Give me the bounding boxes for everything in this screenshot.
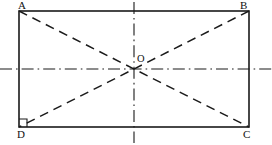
vertex-label-a: A <box>18 0 26 11</box>
geometry-figure: A B C D O <box>0 0 272 145</box>
vertex-label-b: B <box>240 0 247 11</box>
figure-canvas <box>0 0 272 145</box>
vertex-label-d: D <box>17 129 25 140</box>
vertex-label-c: C <box>243 129 250 140</box>
center-point-label-o: O <box>137 54 145 65</box>
